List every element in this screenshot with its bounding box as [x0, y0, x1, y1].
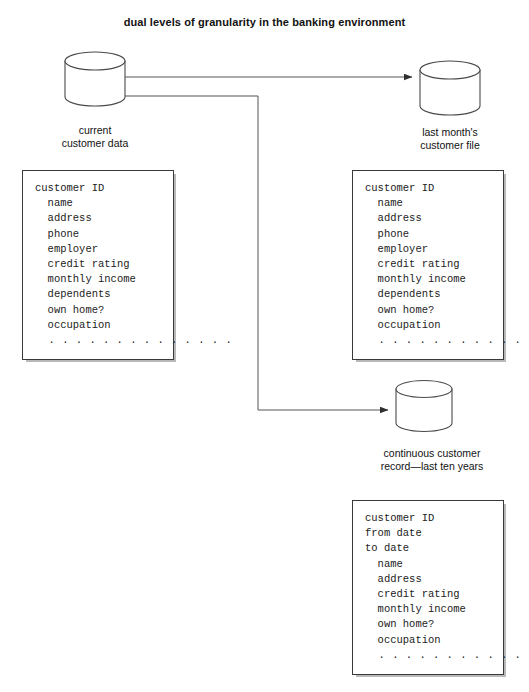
field-row: name	[365, 196, 503, 211]
field-row: address	[35, 211, 173, 226]
field-row: credit rating	[365, 257, 503, 272]
field-row: address	[365, 211, 503, 226]
field-row: occupation	[365, 633, 503, 648]
field-row: customer ID	[365, 511, 503, 526]
field-row: to date	[365, 541, 503, 556]
fieldbox-current: customer ID name address phone employer …	[22, 170, 174, 360]
label-continuous: continuous customer record—last ten year…	[352, 447, 512, 473]
field-row: . . . . . . . . . . . . . .	[35, 333, 173, 348]
field-row: customer ID	[365, 181, 503, 196]
field-row: own home?	[365, 617, 503, 632]
label-current-line1: current	[35, 124, 155, 137]
label-continuous-line2: record—last ten years	[352, 460, 512, 473]
field-row: own home?	[365, 303, 503, 318]
cylinder-continuous	[396, 381, 452, 432]
field-row: phone	[365, 227, 503, 242]
fieldbox-last-month: customer ID name address phone employer …	[352, 170, 504, 360]
field-row: monthly income	[365, 272, 503, 287]
label-last-month-line2: customer file	[390, 139, 510, 152]
label-current: current customer data	[35, 124, 155, 150]
field-row: dependents	[365, 287, 503, 302]
field-row: monthly income	[35, 272, 173, 287]
field-row: . . . . . . . . . . . . . .	[365, 333, 503, 348]
label-last-month-line1: last month's	[390, 126, 510, 139]
field-row: dependents	[35, 287, 173, 302]
field-row: phone	[35, 227, 173, 242]
field-row: credit rating	[365, 587, 503, 602]
field-row: . . . . . . . . . . . . . .	[365, 648, 503, 663]
field-row: address	[365, 572, 503, 587]
field-row: name	[35, 196, 173, 211]
diagram-canvas: dual levels of granularity in the bankin…	[0, 0, 529, 692]
label-last-month: last month's customer file	[390, 126, 510, 152]
field-row: occupation	[365, 318, 503, 333]
field-row: name	[365, 557, 503, 572]
field-row: customer ID	[35, 181, 173, 196]
field-row: own home?	[35, 303, 173, 318]
field-row: occupation	[35, 318, 173, 333]
cylinder-current	[65, 52, 125, 106]
field-row: employer	[35, 242, 173, 257]
field-row: employer	[365, 242, 503, 257]
field-row: monthly income	[365, 602, 503, 617]
label-continuous-line1: continuous customer	[352, 447, 512, 460]
cylinder-last-month	[420, 61, 480, 115]
fieldbox-continuous: customer IDfrom dateto date name address…	[352, 500, 504, 675]
label-current-line2: customer data	[35, 137, 155, 150]
field-row: from date	[365, 526, 503, 541]
field-row: credit rating	[35, 257, 173, 272]
page-title: dual levels of granularity in the bankin…	[0, 16, 529, 28]
